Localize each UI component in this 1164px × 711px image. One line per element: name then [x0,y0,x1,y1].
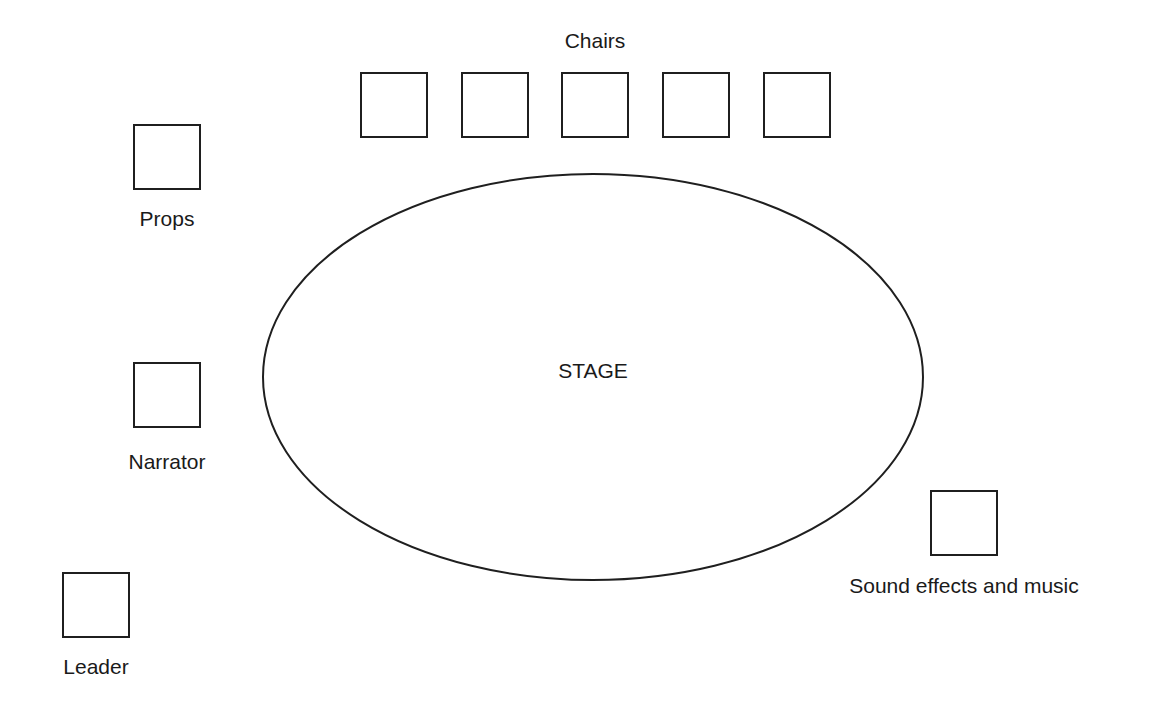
chair-box [662,72,730,138]
chair-box [561,72,629,138]
chair-box [763,72,831,138]
narrator-box [133,362,201,428]
stage-label: STAGE [558,360,628,381]
props-label: Props [140,208,195,229]
props-box [133,124,201,190]
chair-box [360,72,428,138]
narrator-label: Narrator [128,451,205,472]
sound-label: Sound effects and music [849,575,1079,596]
leader-label: Leader [63,656,128,677]
chairs-label: Chairs [565,30,626,51]
chair-box [461,72,529,138]
leader-box [62,572,130,638]
sound-box [930,490,998,556]
